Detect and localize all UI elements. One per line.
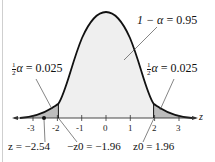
tick-label: -1 bbox=[76, 124, 84, 133]
tick-label: -2 bbox=[52, 124, 60, 133]
left-critical-label: −z0 = −1.96 bbox=[67, 141, 121, 152]
fraction: 12 bbox=[12, 62, 16, 77]
tick-label: 0 bbox=[103, 124, 108, 133]
fraction: 12 bbox=[147, 62, 151, 77]
tick-label: 1 bbox=[128, 124, 133, 133]
tick-label: 3 bbox=[176, 124, 181, 133]
right-critical-label: z0 = 1.96 bbox=[133, 141, 174, 152]
z-axis-label: z bbox=[199, 112, 203, 122]
center-area-label: 1 − α = 0.95 bbox=[137, 14, 197, 26]
left-tail-label: 12α = 0.025 bbox=[12, 62, 63, 77]
axis-arrow-right bbox=[192, 116, 198, 120]
tick-label: -3 bbox=[27, 124, 35, 133]
axis-arrow-left bbox=[12, 116, 18, 120]
right-tail-label: 12α = 0.025 bbox=[147, 62, 198, 77]
tick-label: 2 bbox=[152, 124, 157, 133]
test-statistic-label: z = −2.54 bbox=[8, 141, 50, 152]
right-tail-region bbox=[154, 104, 192, 118]
left-tail-region bbox=[20, 104, 58, 118]
